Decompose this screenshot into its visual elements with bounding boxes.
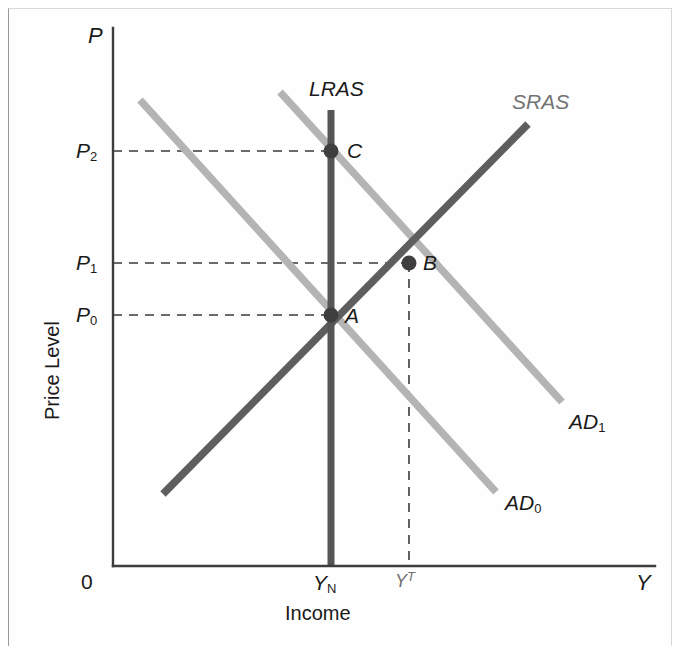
x-axis-symbol: Y (636, 572, 651, 594)
y-tick-p2: P2 (76, 140, 97, 163)
ad-as-figure: P Price Level P2 P1 P0 0 YN YT Y Income … (0, 0, 680, 649)
point-label-b: B (423, 252, 437, 273)
point-marker-a (324, 308, 339, 323)
curve-ad0 (140, 100, 496, 492)
curve-label-lras: LRAS (309, 78, 364, 99)
curve-label-ad0: AD0 (505, 492, 541, 515)
point-label-c: C (347, 140, 362, 161)
x-tick-yn: YN (313, 572, 336, 595)
y-axis-symbol: P (88, 25, 103, 47)
origin-label: 0 (81, 571, 93, 592)
x-tick-yt: YT (395, 570, 415, 590)
axes-lines (113, 28, 655, 566)
point-marker-c (324, 144, 339, 159)
y-tick-p1: P1 (76, 252, 97, 275)
curve-label-ad1: AD1 (569, 411, 605, 434)
curve-ad1 (280, 92, 562, 402)
point-label-a: A (345, 305, 359, 326)
equilibrium-points (324, 144, 417, 323)
y-tick-p0: P0 (76, 304, 97, 327)
point-marker-b (402, 256, 417, 271)
x-axis-title: Income (285, 603, 351, 623)
y-axis-title: Price Level (42, 321, 62, 420)
curve-label-sras: SRAS (512, 91, 569, 112)
guide-lines (113, 151, 409, 566)
